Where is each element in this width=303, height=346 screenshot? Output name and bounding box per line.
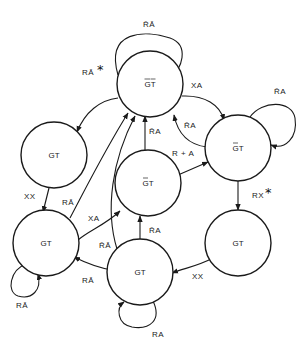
node-right-label: GT — [232, 144, 243, 153]
node-center-label: GT — [142, 179, 153, 188]
label-right-loop: R̄A — [274, 87, 286, 96]
edge-right-lower-to-bottom — [172, 258, 213, 273]
label-bottom-to-left-lower: RĀ — [82, 276, 94, 285]
label-top-to-right: XA — [191, 81, 203, 90]
edge-bottom-to-left-lower — [74, 257, 112, 270]
node-right-lower-label: GT — [232, 239, 243, 248]
node-left-upper-label: GT — [48, 151, 59, 160]
label-left-upper-to-left-lower: XX — [24, 192, 36, 201]
label-right-lower-to-bottom: XX — [192, 272, 204, 281]
node-top[interactable]: GT — [117, 51, 183, 117]
label-bottom-to-top: R̄Ā — [99, 241, 111, 250]
node-left-upper[interactable]: GT — [21, 122, 87, 188]
star-right-to-right-lower: * — [265, 185, 272, 200]
node-top-label: GT — [144, 80, 155, 89]
label-right-to-right-lower: RX — [252, 191, 264, 200]
node-center[interactable]: GT — [115, 150, 181, 216]
state-diagram: GT GT GT GT GT GT GT — [0, 0, 303, 346]
label-left-lower-to-top: RĀ — [62, 198, 74, 207]
label-center-to-right: R + A — [172, 149, 194, 158]
label-top-loop: R̄Ā — [143, 20, 155, 29]
label-left-lower-to-center: XA — [88, 214, 100, 223]
label-center-to-top: R̄A — [149, 127, 161, 136]
node-left-lower-label: GT — [40, 239, 51, 248]
edge-right-to-top — [174, 115, 207, 147]
edge-top-to-right — [182, 96, 224, 120]
label-top-to-left-upper: RĀ — [82, 68, 94, 77]
node-right[interactable]: GT — [205, 115, 271, 181]
edge-top-to-left-upper — [77, 98, 118, 132]
star-top-to-left-upper: * — [97, 62, 104, 77]
label-left-lower-loop: RĀ — [16, 301, 28, 310]
edge-left-upper-to-left-lower — [43, 188, 49, 212]
nodes: GT GT GT GT GT GT GT — [13, 51, 271, 305]
node-bottom-label: GT — [134, 268, 145, 277]
edge-center-to-right — [178, 162, 208, 175]
node-right-lower[interactable]: GT — [205, 210, 271, 276]
label-right-to-top: R̄A — [184, 121, 196, 130]
label-bottom-loop: RA — [152, 330, 164, 339]
node-bottom[interactable]: GT — [107, 239, 173, 305]
node-left-lower[interactable]: GT — [13, 210, 79, 276]
label-bottom-to-center: R̄A — [149, 226, 161, 235]
